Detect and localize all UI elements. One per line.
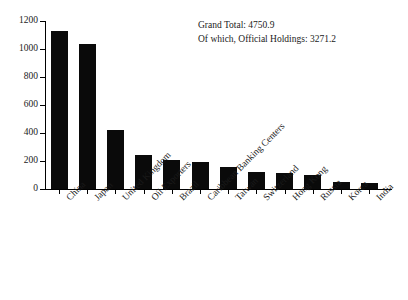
x-axis-category-label-text: United Kingdom [121,151,173,203]
x-axis-category-label-text: Japan [93,181,115,203]
annotation-grand-total: Grand Total: 4750.9 [198,18,336,32]
x-axis-category-label: Switzerland [262,196,269,203]
x-axis-category-label-text: Taiwan [234,176,260,202]
x-axis-category-label-text: Korea [347,180,370,203]
x-axis-category-label: Brazil [178,196,185,203]
x-axis-category-label: United Kingdom [121,196,128,203]
x-axis-category-label: Japan [93,196,100,203]
x-axis-category-label: Oil Exporters [150,196,157,203]
annotation-official-holdings: Of which, Official Holdings: 3271.2 [198,32,336,46]
bar-chart: 020040060080010001200 ChinaJapanUnited K… [0,0,408,300]
x-axis-category-label-text: China [65,180,88,203]
x-axis-category-label-text: Russia [319,178,344,203]
x-axis-category-label-text: India [375,182,396,203]
x-axis-category-label-text: Brazil [178,180,201,203]
x-axis-category-label: Russia [319,196,326,203]
x-axis-category-label: India [375,196,382,203]
x-axis-category-label: China [65,196,72,203]
x-axis-category-label: Hong Kong [291,196,298,203]
chart-annotation: Grand Total: 4750.9 Of which, Official H… [198,18,336,46]
x-axis-category-label: Taiwan [234,196,241,203]
x-axis-category-label: Caribbean Banking Centers [206,196,213,203]
x-axis-category-label: Korea [347,196,354,203]
